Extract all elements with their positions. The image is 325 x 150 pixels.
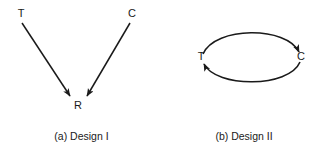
figure-canvas: T C R (a) Design I T C (b) Design II (0, 0, 325, 150)
edge-t-to-c-arc (203, 33, 299, 54)
design-2-graph (163, 0, 325, 150)
caption-design-1: (a) Design I (0, 130, 163, 142)
panel-design-2: T C (b) Design II (163, 0, 325, 150)
caption-design-2: (b) Design II (163, 130, 325, 142)
node-label-r-design-1: R (71, 100, 85, 111)
edge-t-to-r (22, 23, 70, 96)
design-1-graph (0, 0, 163, 150)
node-label-c-design-2: C (294, 51, 308, 62)
node-label-t-design-2: T (194, 51, 208, 62)
edge-c-to-t-arc (204, 62, 300, 82)
panel-design-1: T C R (a) Design I (0, 0, 163, 150)
edge-c-to-r (87, 23, 130, 96)
node-label-c-design-1: C (125, 8, 139, 19)
node-label-t-design-1: T (14, 8, 28, 19)
